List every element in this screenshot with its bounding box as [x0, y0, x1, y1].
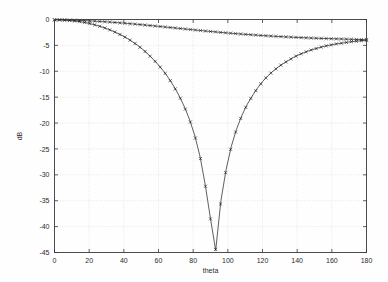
y-tick-label: -35: [39, 197, 49, 204]
x-tick-label: 100: [222, 257, 234, 264]
series-markers: [53, 18, 368, 41]
x-tick-label: 20: [85, 257, 93, 264]
data-point-marker: [154, 60, 157, 63]
data-point-marker: [305, 50, 308, 53]
y-tick-label: -45: [39, 249, 49, 256]
data-point-marker: [169, 79, 172, 82]
data-point-marker: [239, 117, 242, 120]
y-axis-title: dB: [16, 131, 23, 140]
data-point-marker: [133, 42, 136, 45]
data-point-marker: [149, 55, 152, 58]
y-tick-label: -10: [39, 68, 49, 75]
data-point-marker: [279, 64, 282, 67]
y-tick-label: -15: [39, 94, 49, 101]
x-tick-label: 60: [155, 257, 163, 264]
data-point-marker: [254, 89, 257, 92]
data-point-marker: [179, 97, 182, 100]
x-tick-label: 160: [326, 257, 338, 264]
data-point-marker: [123, 36, 126, 39]
data-point-marker: [138, 46, 141, 49]
data-point-marker: [103, 26, 106, 29]
data-point-marker: [269, 71, 272, 74]
data-point-marker: [113, 30, 116, 33]
x-tick-label: 180: [361, 257, 373, 264]
data-point-marker: [289, 57, 292, 60]
data-point-marker: [274, 67, 277, 70]
x-tick-label: 80: [189, 257, 197, 264]
data-point-marker: [118, 33, 121, 36]
data-point-marker: [128, 39, 131, 42]
series-group: [53, 18, 368, 251]
data-point-marker: [108, 28, 111, 31]
y-tick-label: -25: [39, 146, 49, 153]
data-point-marker: [284, 60, 287, 63]
y-tick-label: 0: [46, 16, 50, 23]
data-point-marker: [143, 50, 146, 53]
series-lower: [53, 18, 368, 251]
data-point-marker: [244, 106, 247, 109]
data-point-marker: [299, 52, 302, 55]
series-line: [55, 20, 367, 251]
data-point-marker: [159, 65, 162, 68]
y-tick-label: -30: [39, 171, 49, 178]
data-point-marker: [164, 72, 167, 75]
x-tick-label: 140: [291, 257, 303, 264]
series-markers: [53, 18, 368, 251]
chart-figure: 0204060801001201401601800-5-10-15-20-25-…: [0, 0, 388, 282]
data-point-marker: [264, 76, 267, 79]
y-tick-label: -5: [43, 42, 49, 49]
data-point-marker: [249, 97, 252, 100]
data-point-marker: [174, 87, 177, 90]
series-upper: [53, 18, 368, 41]
y-tick-label: -20: [39, 120, 49, 127]
data-point-marker: [184, 107, 187, 110]
x-tick-label: 0: [53, 257, 57, 264]
x-tick-label: 120: [257, 257, 269, 264]
data-point-marker: [259, 82, 262, 85]
y-tick-label: -40: [39, 223, 49, 230]
x-tick-label: 40: [120, 257, 128, 264]
x-axis-title: theta: [203, 267, 219, 274]
plot-canvas: 0204060801001201401601800-5-10-15-20-25-…: [0, 0, 388, 282]
